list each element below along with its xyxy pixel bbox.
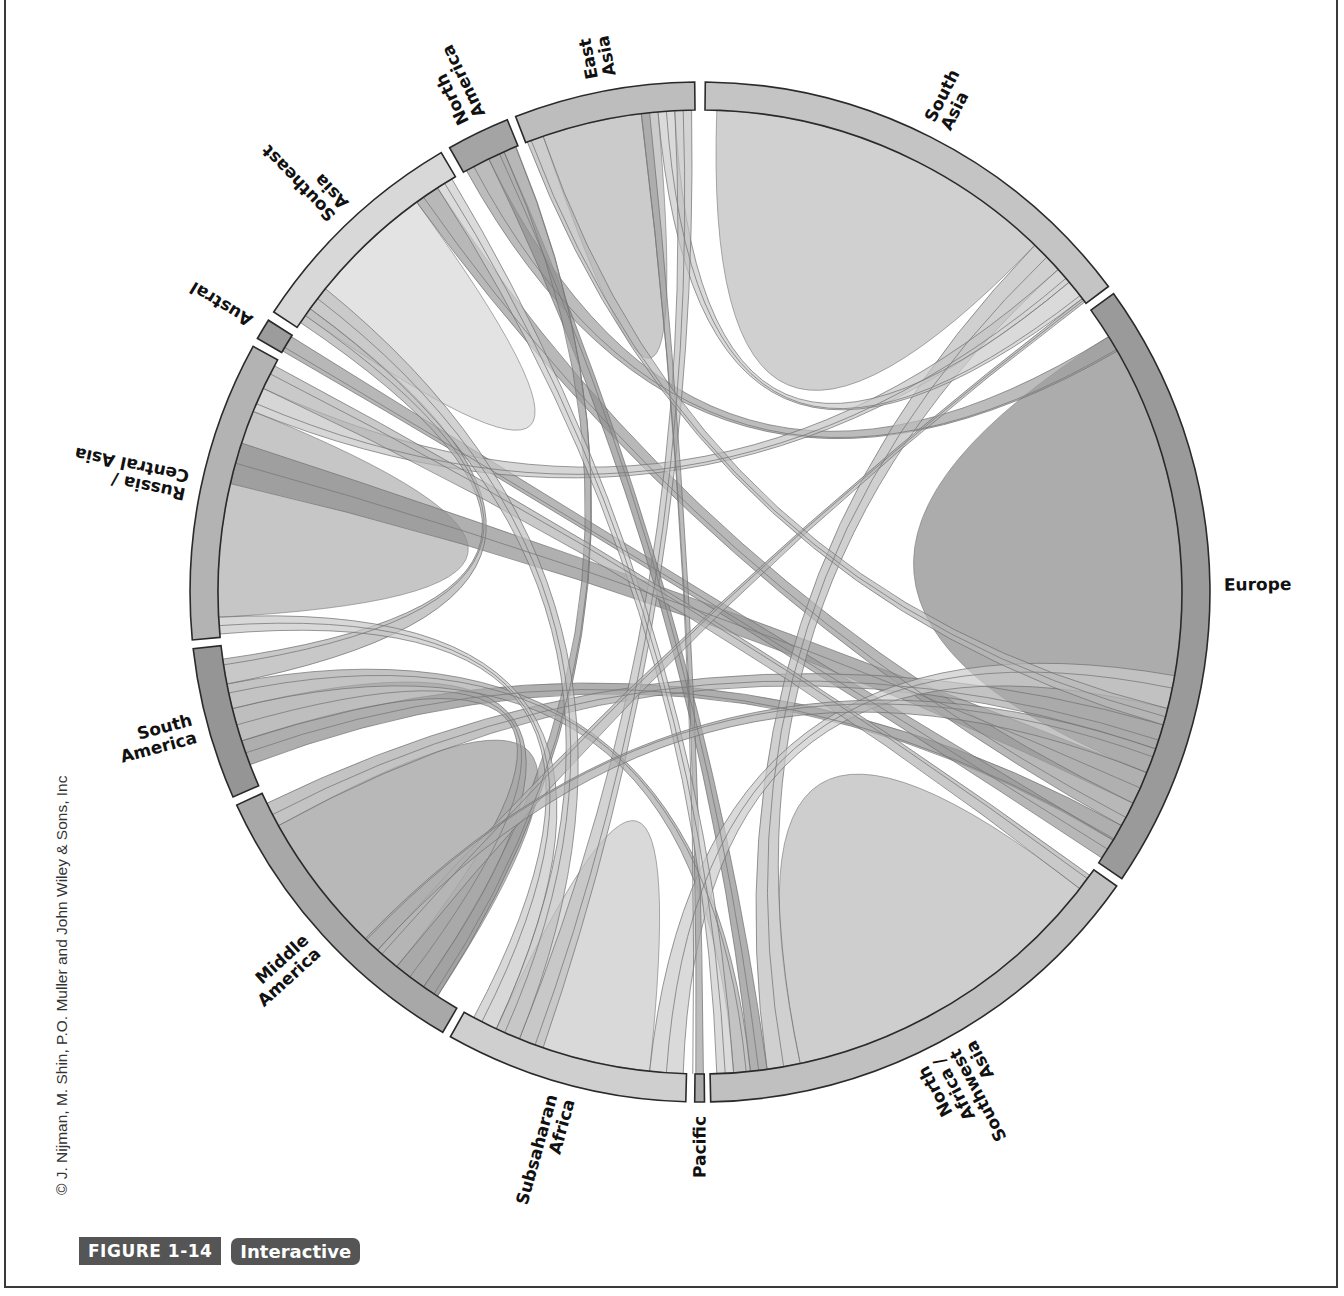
segment-label-line: Austral xyxy=(186,278,256,331)
label-east-asia: EastAsia xyxy=(574,33,619,81)
chord-diagram: SouthAsiaEuropeNorthAfrica /SouthwestAsi… xyxy=(0,0,1344,1296)
label-austral: Austral xyxy=(186,278,256,331)
copyright-credit: © J. Nijman, M. Shin, P.O. Muller and Jo… xyxy=(53,776,71,1195)
label-subsaharan-africa: SubsaharanAfrica xyxy=(512,1092,579,1212)
figure-badges: FIGURE 1-14 Interactive xyxy=(79,1237,360,1265)
figure-number-badge: FIGURE 1-14 xyxy=(79,1237,221,1265)
label-north-africa-southwest-asia: NorthAfrica /SouthwestAsia xyxy=(913,1037,1026,1162)
label-north-america: NorthAmerica xyxy=(421,42,489,129)
segment-pacific[interactable] xyxy=(695,1074,705,1102)
segment-label-line: Pacific xyxy=(689,1116,709,1178)
label-southeast-asia: SoutheastAsia xyxy=(258,129,353,226)
segment-label-line: Europe xyxy=(1224,574,1292,595)
label-russia-central-asia: Russia /Central Asia xyxy=(69,443,191,504)
label-south-america: SouthAmerica xyxy=(114,710,199,767)
label-south-asia: SouthAsia xyxy=(920,66,979,133)
interactive-badge[interactable]: Interactive xyxy=(231,1238,360,1265)
label-middle-america: MiddleAmerica xyxy=(241,930,324,1011)
label-pacific: Pacific xyxy=(689,1116,709,1178)
label-europe: Europe xyxy=(1224,574,1292,595)
